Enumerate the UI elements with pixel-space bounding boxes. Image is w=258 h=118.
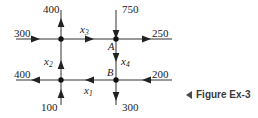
arrowhead-out-bottom-right — [113, 92, 120, 101]
node-top-left — [58, 36, 63, 41]
branch-label-x2: x2 — [44, 56, 53, 69]
arrowhead-in-left-top — [31, 36, 40, 43]
flow-label-in-top-right: 750 — [122, 4, 139, 15]
figure-caption-text: Figure Ex-3 — [196, 89, 250, 100]
arrowhead-out-left-bottom — [31, 77, 40, 84]
flow-label-in-right-bottom: 200 — [152, 69, 169, 80]
figure-caption: Figure Ex-3 — [186, 89, 250, 100]
branch-label-x1: x1 — [84, 85, 93, 98]
arrowhead-x4 — [113, 53, 120, 62]
flow-label-out-right-top: 250 — [152, 28, 169, 39]
arrowhead-x2 — [58, 60, 65, 69]
flow-label-out-bottom-right: 300 — [122, 102, 139, 113]
arrowhead-in-right-bottom — [142, 77, 151, 84]
flow-label-in-left-top: 300 — [14, 28, 31, 39]
arrowhead-x1 — [85, 77, 94, 84]
branch-label-x1-subscript: 1 — [89, 89, 93, 98]
node-bottom-left — [58, 77, 63, 82]
arrowhead-out-right-top — [142, 36, 151, 43]
figure-container: 300 400 750 250 400 100 300 200 x3 x2 x4… — [0, 0, 258, 118]
branch-label-x4-subscript: 4 — [126, 60, 130, 69]
node-a — [113, 36, 118, 41]
arrowhead-out-top-left — [58, 18, 65, 27]
node-b — [113, 77, 118, 82]
branch-label-x3: x3 — [80, 24, 89, 37]
arrowhead-in-bottom-left — [58, 89, 65, 98]
flow-label-in-bottom-left: 100 — [41, 102, 58, 113]
branch-label-x3-subscript: 3 — [85, 28, 89, 37]
branch-label-x2-subscript: 2 — [49, 60, 53, 69]
left-triangle-icon — [186, 91, 192, 99]
node-label-a: A — [108, 42, 114, 53]
flow-label-out-left-bottom: 400 — [14, 69, 31, 80]
branch-label-x4: x4 — [121, 56, 130, 69]
flow-label-out-top-left: 400 — [43, 4, 60, 15]
node-label-b: B — [107, 68, 113, 79]
